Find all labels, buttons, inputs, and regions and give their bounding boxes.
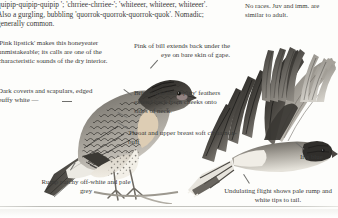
leader-line-undulating bbox=[243, 174, 250, 184]
caption-undulating-flight: Undulating flight shows pale rump and wh… bbox=[218, 186, 338, 204]
leader-line-bill-pink bbox=[150, 60, 158, 69]
page-bottom-rule bbox=[0, 206, 338, 207]
caption-bristle-feathers: Bristle-like fine 'spiny' feathers exten… bbox=[134, 88, 230, 115]
caption-throat-cinnamon-buff: Throat and upper breast soft cinnamon-bu… bbox=[128, 128, 240, 146]
caption-rump-patchy: Rump patchy off-white and pale grey bbox=[38, 177, 134, 195]
leader-line-bristle bbox=[123, 89, 132, 96]
caption-pink-lipstick: 'Pink lipstick' makes this honeyeater un… bbox=[0, 38, 118, 65]
races-description-text: No races. Juv and imm. are similar to ad… bbox=[245, 1, 337, 20]
field-guide-page: quipip-quipip-quipip '; 'chrriee-chrriee… bbox=[0, 0, 338, 218]
voice-description-text: quipip-quipip-quipip '; 'chrriee-chrriee… bbox=[0, 0, 219, 29]
leader-line-coverts bbox=[62, 101, 72, 102]
caption-iris-blue: Iris blue bbox=[300, 152, 338, 161]
leader-line-throat bbox=[117, 122, 128, 129]
leader-line-rump bbox=[70, 162, 76, 170]
leader-line-bristle-2 bbox=[118, 112, 128, 118]
caption-bill-pink-gape: Pink of bill extends back under the eye … bbox=[126, 41, 230, 59]
leader-line-iris bbox=[295, 142, 304, 150]
flying-honeyeater-illustration bbox=[186, 48, 338, 204]
page-edge-shadow bbox=[0, 209, 338, 218]
wing-feathers-detail-illustration bbox=[256, 42, 338, 104]
caption-dark-coverts: Dark coverts and scapulars, edged buffy … bbox=[0, 86, 94, 104]
